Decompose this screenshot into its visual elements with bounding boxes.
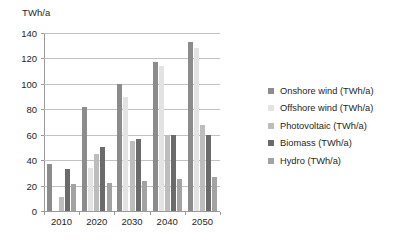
x-axis-tick-mark <box>79 212 80 215</box>
y-axis-tick-label: 40 <box>5 155 37 166</box>
bar <box>212 177 217 211</box>
bar <box>123 97 128 211</box>
bar <box>142 181 147 212</box>
bar <box>130 141 135 211</box>
bar <box>188 42 193 211</box>
y-axis-tick-mark <box>41 58 44 59</box>
bar-chart: TWh/a 020406080100120140 201020202030204… <box>0 0 407 242</box>
bar <box>88 168 93 211</box>
bar <box>100 147 105 211</box>
legend-swatch-icon <box>268 158 274 164</box>
x-axis-tick-mark <box>44 212 45 215</box>
x-axis-tick-label: 2010 <box>42 216 82 227</box>
bar <box>206 135 211 211</box>
legend-item[interactable]: Onshore wind (TWh/a) <box>268 82 374 100</box>
x-axis-tick-mark <box>114 212 115 215</box>
bar <box>71 184 76 211</box>
bar <box>117 84 122 211</box>
bar <box>159 66 164 211</box>
x-axis-tick-label: 2050 <box>182 216 222 227</box>
y-axis-tick-label: 20 <box>5 180 37 191</box>
x-axis-tick-label: 2020 <box>77 216 117 227</box>
legend-swatch-icon <box>268 88 274 94</box>
legend-item-label: Biomass (TWh/a) <box>280 138 352 148</box>
y-axis-tick-label: 0 <box>5 206 37 217</box>
y-axis-tick-label: 100 <box>5 78 37 89</box>
bar <box>47 164 52 211</box>
legend-item-label: Offshore wind (TWh/a) <box>280 103 373 113</box>
x-axis-tick-mark <box>185 212 186 215</box>
y-axis-title: TWh/a <box>22 7 50 18</box>
bar <box>82 107 87 211</box>
legend-item-label: Onshore wind (TWh/a) <box>280 86 374 96</box>
bar <box>171 135 176 211</box>
y-axis-tick-mark <box>41 84 44 85</box>
gridline <box>44 211 220 212</box>
bar <box>65 169 70 211</box>
legend-item-label: Hydro (TWh/a) <box>280 156 341 166</box>
legend-item-label: Photovoltaic (TWh/a) <box>280 121 367 131</box>
y-axis-tick-mark <box>41 109 44 110</box>
x-axis-tick-label: 2040 <box>147 216 187 227</box>
bar <box>194 48 199 211</box>
x-axis-tick-mark <box>150 212 151 215</box>
bar <box>59 197 64 211</box>
x-axis-tick-label: 2030 <box>112 216 152 227</box>
legend-item[interactable]: Photovoltaic (TWh/a) <box>268 117 374 135</box>
bar <box>94 154 99 211</box>
y-axis-tick-label: 80 <box>5 104 37 115</box>
bar <box>200 125 205 211</box>
y-axis-tick-mark <box>41 160 44 161</box>
y-axis-tick-mark <box>41 135 44 136</box>
y-axis-tick-label: 140 <box>5 28 37 39</box>
legend-item[interactable]: Biomass (TWh/a) <box>268 135 374 153</box>
plot-area <box>44 33 220 211</box>
bar <box>136 139 141 211</box>
x-axis-tick-mark <box>220 212 221 215</box>
legend-swatch-icon <box>268 105 274 111</box>
gridline <box>44 33 220 34</box>
y-axis-tick-mark <box>41 186 44 187</box>
legend-item[interactable]: Hydro (TWh/a) <box>268 152 374 170</box>
y-axis-tick-mark <box>41 33 44 34</box>
legend-swatch-icon <box>268 140 274 146</box>
chart-legend: Onshore wind (TWh/a)Offshore wind (TWh/a… <box>268 82 374 170</box>
legend-swatch-icon <box>268 123 274 129</box>
bar <box>107 183 112 211</box>
bar <box>165 135 170 211</box>
y-axis-tick-label: 60 <box>5 129 37 140</box>
y-axis-tick-label: 120 <box>5 53 37 64</box>
bar <box>153 62 158 211</box>
bar <box>177 179 182 211</box>
legend-item[interactable]: Offshore wind (TWh/a) <box>268 100 374 118</box>
